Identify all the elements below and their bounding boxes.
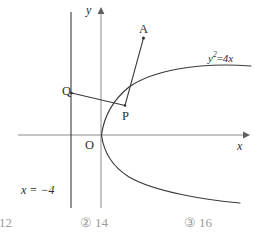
answer-option-1-value: 12 [0, 215, 12, 230]
point-marker-p [124, 104, 127, 107]
y-axis [98, 7, 105, 208]
segment-pa [125, 38, 144, 106]
answer-option-2-mark: ② [80, 215, 92, 230]
x-axis-arrowhead [243, 132, 250, 139]
point-marker-a [142, 37, 145, 40]
curve-equation-label: y2=4x [208, 51, 233, 64]
x-axis [18, 132, 250, 139]
curve-eq-right: 4x [223, 52, 233, 64]
y-axis-arrowhead [98, 7, 105, 14]
answer-options-row: 12 ②14 ③16 [0, 211, 255, 235]
answer-option-1[interactable]: 12 [0, 211, 12, 235]
origin-label: O [85, 139, 94, 152]
answer-option-3[interactable]: ③16 [184, 211, 212, 235]
x-axis-label: x [237, 140, 242, 152]
y-axis-label: y [86, 4, 91, 16]
point-label-p: P [122, 110, 129, 123]
answer-option-2-value: 14 [95, 215, 108, 230]
math-figure: y x O Q P A y2=4x x = −4 [0, 0, 255, 235]
answer-option-2[interactable]: ②14 [80, 211, 108, 235]
parabola-upper-branch [102, 65, 252, 135]
point-label-q: Q [62, 85, 71, 98]
directrix-equation-label: x = −4 [21, 184, 55, 196]
answer-option-3-mark: ③ [184, 215, 196, 230]
answer-option-3-value: 16 [199, 215, 212, 230]
parabola-lower-branch [102, 135, 241, 203]
point-label-a: A [139, 23, 148, 36]
